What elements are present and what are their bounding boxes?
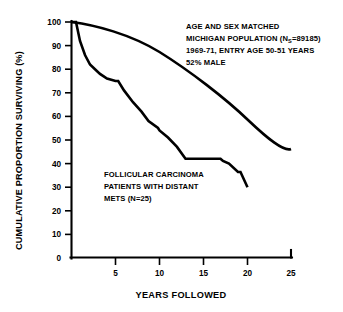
chart-canvas: CUMULATIVE PROPORTION SURVIVING (%) 100 … bbox=[0, 0, 343, 312]
annotation-population-line-1: AGE AND SEX MATCHED bbox=[186, 22, 280, 31]
y-axis-label: CUMULATIVE PROPORTION SURVIVING (%) bbox=[14, 51, 24, 250]
y-tick-label-80: 80 bbox=[52, 65, 62, 74]
y-tick-label-90: 90 bbox=[52, 42, 62, 51]
annotation-carcinoma-line-3: METS (N=25) bbox=[104, 194, 152, 203]
y-tick-label-30: 30 bbox=[52, 183, 62, 192]
x-tick-label-5: 5 bbox=[113, 269, 118, 278]
annotation-population-line-2: MICHIGAN POPULATION (NS=89185) bbox=[186, 34, 321, 44]
y-axis-tick-labels: 100 90 80 70 60 50 40 30 20 10 0 bbox=[47, 18, 61, 263]
annotation-population-line-4: 52% MALE bbox=[186, 58, 226, 67]
plot-axes bbox=[71, 21, 293, 259]
x-tick-label-25: 25 bbox=[286, 269, 296, 278]
x-tick-label-15: 15 bbox=[199, 269, 209, 278]
x-axis-label: YEARS FOLLOWED bbox=[136, 290, 227, 300]
y-tick-label-60: 60 bbox=[52, 112, 62, 121]
annotation-population-line-3: 1969-71, ENTRY AGE 50-51 YEARS bbox=[186, 46, 314, 55]
y-tick-label-50: 50 bbox=[52, 136, 62, 145]
annotation-carcinoma-line-2: PATIENTS WITH DISTANT bbox=[104, 182, 199, 191]
x-axis-ticks bbox=[116, 258, 248, 265]
x-axis-tick-labels: 5 10 15 20 25 bbox=[113, 269, 296, 278]
annotation-carcinoma-note: FOLLICULAR CARCINOMA PATIENTS WITH DISTA… bbox=[104, 170, 204, 203]
x-tick-label-20: 20 bbox=[243, 269, 253, 278]
annotation-population-line-2-post: =89185) bbox=[292, 34, 321, 43]
y-axis-ticks bbox=[65, 22, 71, 234]
y-tick-label-100: 100 bbox=[47, 18, 61, 27]
y-tick-label-20: 20 bbox=[52, 207, 62, 216]
annotation-carcinoma-line-1: FOLLICULAR CARCINOMA bbox=[104, 170, 204, 179]
annotation-population-note: AGE AND SEX MATCHED MICHIGAN POPULATION … bbox=[186, 22, 321, 67]
survival-curve-figure: CUMULATIVE PROPORTION SURVIVING (%) 100 … bbox=[0, 0, 343, 312]
x-tick-label-10: 10 bbox=[155, 269, 165, 278]
y-tick-label-40: 40 bbox=[52, 160, 62, 169]
annotation-population-line-2-pre: MICHIGAN POPULATION (N bbox=[186, 34, 288, 43]
y-tick-label-0: 0 bbox=[56, 254, 61, 263]
y-tick-label-10: 10 bbox=[52, 230, 62, 239]
y-tick-label-70: 70 bbox=[52, 89, 62, 98]
